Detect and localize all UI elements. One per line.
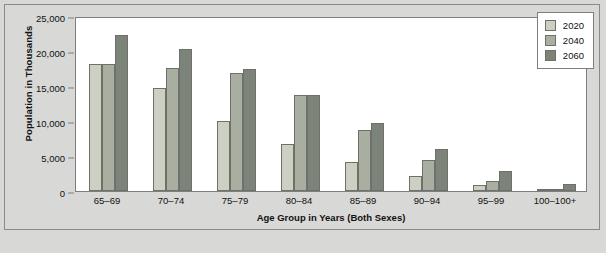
bar-2020-65–69 [89, 64, 102, 191]
x-tick-label: 70–74 [158, 195, 184, 206]
bar-2060-80–84 [307, 95, 320, 191]
bar-2040-95–99 [486, 181, 499, 191]
bar-2060-75–79 [243, 69, 256, 192]
legend-swatch-icon [545, 35, 556, 46]
bar-2020-70–74 [153, 88, 166, 191]
y-tick-mark [68, 53, 74, 54]
x-tick-label: 100–100+ [534, 195, 577, 206]
y-tick-mark [68, 123, 74, 124]
bar-2040-90–94 [422, 160, 435, 192]
bar-2040-70–74 [166, 68, 179, 191]
bar-group [204, 16, 268, 191]
bar-2040-75–79 [230, 73, 243, 191]
y-tick-label: 5,000 [41, 153, 65, 164]
bar-2020-100–100+ [537, 189, 550, 191]
bar-2060-85–89 [371, 123, 384, 191]
x-tick-label: 95–99 [478, 195, 504, 206]
bar-group [268, 16, 332, 191]
y-tick-label: 10,000 [36, 118, 65, 129]
bar-2020-90–94 [409, 176, 422, 191]
y-axis: 05,00010,00015,00020,00025,000 [0, 17, 75, 193]
bar-2060-70–74 [179, 49, 192, 191]
y-tick-label: 20,000 [36, 48, 65, 59]
x-tick-label: 90–94 [414, 195, 440, 206]
bar-2020-75–79 [217, 121, 230, 191]
bar-2040-100–100+ [550, 189, 563, 191]
y-tick-label: 0 [60, 188, 65, 199]
y-tick-mark [68, 193, 74, 194]
legend-item-2040: 2040 [545, 33, 584, 48]
bar-2040-65–69 [102, 64, 115, 191]
bar-2020-80–84 [281, 144, 294, 191]
legend: 202020402060 [537, 12, 594, 69]
bar-2040-80–84 [294, 95, 307, 191]
y-tick-mark [68, 18, 74, 19]
legend-label: 2060 [563, 50, 584, 61]
bar-group [460, 16, 524, 191]
bar-2060-90–94 [435, 149, 448, 191]
legend-item-2060: 2060 [545, 48, 584, 63]
bar-2060-95–99 [499, 171, 512, 191]
plot-area [75, 17, 587, 192]
y-tick-mark [68, 158, 74, 159]
y-tick-mark [68, 88, 74, 89]
bar-2040-85–89 [358, 130, 371, 191]
bar-group [396, 16, 460, 191]
y-tick-label: 25,000 [36, 13, 65, 24]
x-axis-title: Age Group in Years (Both Sexes) [75, 212, 587, 223]
legend-label: 2040 [563, 35, 584, 46]
x-tick-label: 75–79 [222, 195, 248, 206]
bar-2020-95–99 [473, 185, 486, 191]
legend-swatch-icon [545, 50, 556, 61]
legend-item-2020: 2020 [545, 18, 584, 33]
chart-figure: Population in Thousands 05,00010,00015,0… [0, 0, 606, 253]
x-tick-label: 85–89 [350, 195, 376, 206]
bar-group [332, 16, 396, 191]
bar-group [140, 16, 204, 191]
y-tick-label: 15,000 [36, 83, 65, 94]
bar-2020-85–89 [345, 162, 358, 191]
bar-2060-100–100+ [563, 184, 576, 191]
legend-swatch-icon [545, 20, 556, 31]
bar-group [76, 16, 140, 191]
x-tick-label: 80–84 [286, 195, 312, 206]
bar-2060-65–69 [115, 35, 128, 191]
x-axis: 65–6970–7475–7980–8485–8990–9495–99100–1… [75, 195, 587, 211]
legend-label: 2020 [563, 20, 584, 31]
x-tick-label: 65–69 [94, 195, 120, 206]
